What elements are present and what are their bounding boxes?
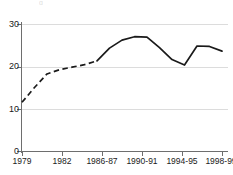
x-tick-label-1979: 1979 bbox=[2, 157, 42, 166]
y-tick-label-30: 30 bbox=[3, 20, 19, 29]
gridline-20 bbox=[22, 67, 228, 68]
line-chart: g 30 20 10 0 1979 1982 1986-87 1990-91 1… bbox=[0, 0, 233, 175]
clipped-title-remnant: g bbox=[39, 0, 49, 5]
y-axis-line bbox=[21, 22, 22, 153]
y-tick-label-0: 0 bbox=[3, 147, 19, 156]
gridline-30 bbox=[22, 24, 228, 25]
y-tick-label-10: 10 bbox=[3, 105, 19, 114]
y-tick-label-20: 20 bbox=[3, 62, 19, 71]
plot-area bbox=[22, 18, 228, 151]
x-tick-label-1998-99: 1998-99 bbox=[193, 157, 233, 166]
y-axis-labels: 30 20 10 0 bbox=[0, 0, 19, 175]
gridline-10 bbox=[22, 109, 228, 110]
x-axis-line bbox=[21, 151, 228, 152]
